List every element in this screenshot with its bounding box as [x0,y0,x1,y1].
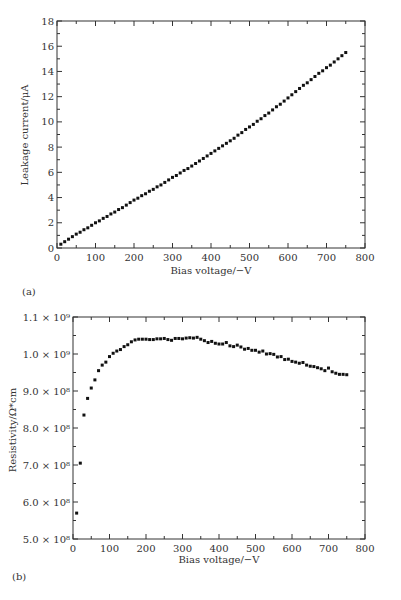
data-point [269,352,272,355]
x-tick-label: 200 [124,252,143,263]
data-point [163,337,166,340]
data-point [344,51,347,54]
y-tick-label: 7.0 × 10⁸ [23,460,70,471]
data-point [115,350,118,353]
y-tick-label: 1.0 × 10⁹ [23,349,70,360]
x-tick-label: 500 [246,543,265,554]
data-point [121,206,124,209]
y-axis-ticks-b: 5.0 × 10⁸6.0 × 10⁸7.0 × 10⁸8.0 × 10⁸9.0 … [23,312,365,545]
data-point [331,370,334,373]
data-point [228,344,231,347]
data-point [312,365,315,368]
data-point [210,152,213,155]
data-point [126,343,129,346]
data-point [310,78,313,81]
data-point [79,231,82,234]
data-point [136,197,139,200]
data-point [93,378,96,381]
data-point [174,337,177,340]
data-point [232,345,235,348]
y-tick-label: 9.0 × 10⁸ [23,386,70,397]
data-point [221,144,224,147]
data-point [267,112,270,115]
data-point [276,355,279,358]
data-point [113,211,116,214]
data-point [109,212,112,215]
x-axis-ticks-b: 0100200300400500600700800 [70,317,375,554]
data-point [152,188,155,191]
data-point [102,217,105,220]
x-tick-label: 300 [163,252,182,263]
y-tick-label: 10 [41,116,54,127]
data-point [290,93,293,96]
x-tick-label: 100 [86,252,105,263]
data-point [119,348,122,351]
data-point [155,337,158,340]
data-point [123,345,126,348]
y-tick-label: 18 [41,16,54,27]
x-tick-label: 0 [70,543,76,554]
data-point [221,343,224,346]
y-tick-label: 14 [41,66,54,77]
data-point [163,181,166,184]
data-point [175,174,178,177]
data-point [140,194,143,197]
data-point [287,96,290,99]
data-point [340,54,343,57]
data-point [106,215,109,218]
data-point [260,117,263,120]
x-tick-label: 600 [278,252,297,263]
data-point [152,338,155,341]
data-point [159,183,162,186]
data-point [301,361,304,364]
data-point [236,344,239,347]
data-point [254,349,257,352]
data-point [233,137,236,140]
data-point [112,352,115,355]
x-tick-label: 0 [54,252,60,263]
data-point [90,224,93,227]
y-tick-label: 1.1 × 10⁹ [23,312,70,323]
data-point [263,114,266,117]
panel-label-a: (a) [22,286,36,297]
data-point [97,369,100,372]
data-point [167,178,170,181]
data-point [283,358,286,361]
data-point [90,387,93,390]
data-point [236,134,239,137]
data-point [239,345,242,348]
data-point [156,185,159,188]
figure: 0100200300400500600700800 02468101214161… [0,0,401,600]
data-point [75,233,78,236]
y-tick-label: 6.0 × 10⁸ [23,497,70,508]
x-axis-title-b: Bias voltage/−V [179,554,261,565]
data-point [130,340,133,343]
data-point [298,362,301,365]
y-tick-label: 8.0 × 10⁸ [23,423,70,434]
data-point [179,171,182,174]
data-point [320,367,323,370]
data-point [59,243,62,246]
x-tick-label: 500 [240,252,259,263]
data-point [337,57,340,60]
plot-area-a [57,21,365,248]
data-point [323,369,326,372]
data-point [256,120,259,123]
data-point [217,147,220,150]
y-axis-title-b: Resistivity/Ω*cm [7,387,18,472]
data-point [252,123,255,126]
data-point [98,219,101,222]
data-point [342,373,345,376]
data-point [63,240,66,243]
data-point [137,338,140,341]
data-point [298,87,301,90]
data-point [275,105,278,108]
data-point [166,338,169,341]
data-point [250,349,253,352]
data-point [133,199,136,202]
data-point [198,159,201,162]
x-tick-label: 400 [209,543,228,554]
data-point [188,336,191,339]
data-point [334,372,337,375]
data-point [141,338,144,341]
